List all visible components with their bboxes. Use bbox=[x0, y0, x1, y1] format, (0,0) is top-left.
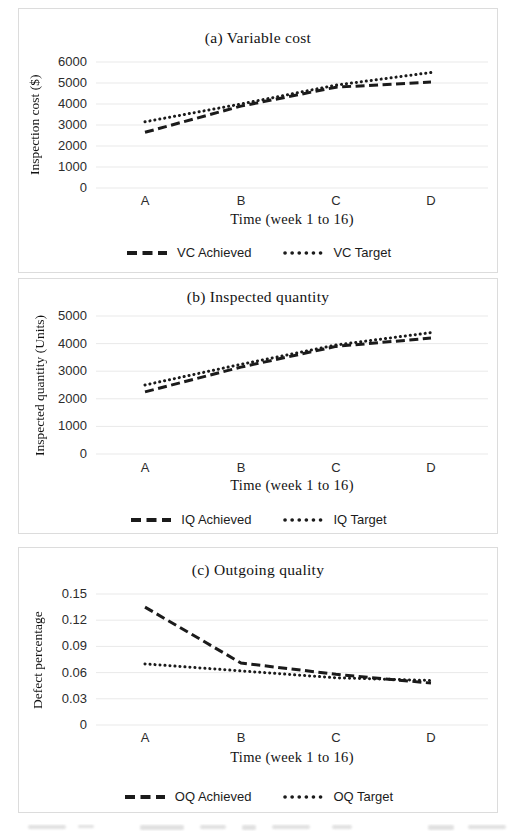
legend-item-achieved: IQ Achieved bbox=[129, 512, 251, 527]
y-tick-label: 0.09 bbox=[19, 639, 87, 653]
legend-label: OQ Target bbox=[333, 789, 393, 804]
y-tick-label: 0 bbox=[19, 447, 87, 461]
legend-label: IQ Target bbox=[333, 512, 386, 527]
plot-area bbox=[19, 9, 497, 272]
x-tick-label: C bbox=[319, 730, 353, 745]
legend-label: VC Target bbox=[333, 245, 391, 260]
dashed-line-icon bbox=[123, 793, 167, 801]
series-line-iq-achieved bbox=[145, 338, 431, 392]
x-tick-label: B bbox=[224, 460, 258, 475]
y-tick-label: 2000 bbox=[19, 139, 87, 153]
legend-label: VC Achieved bbox=[177, 245, 251, 260]
x-tick-label: A bbox=[128, 730, 162, 745]
y-tick-label: 5000 bbox=[19, 309, 87, 323]
x-axis-title: Time (week 1 to 16) bbox=[96, 749, 488, 766]
y-tick-label: 0.15 bbox=[19, 587, 87, 601]
y-tick-label: 0 bbox=[19, 181, 87, 195]
x-tick-label: D bbox=[414, 460, 448, 475]
x-tick-label: C bbox=[319, 193, 353, 208]
y-tick-label: 1000 bbox=[19, 160, 87, 174]
series-line-oq-achieved bbox=[145, 607, 431, 683]
y-tick-label: 4000 bbox=[19, 337, 87, 351]
x-tick-label: C bbox=[319, 460, 353, 475]
y-tick-label: 0.03 bbox=[19, 692, 87, 706]
dotted-line-icon bbox=[281, 793, 325, 801]
legend: VC Achieved VC Target bbox=[19, 245, 497, 260]
cropped-caption-fragment bbox=[0, 824, 517, 831]
x-tick-label: A bbox=[128, 193, 162, 208]
figure-page: { "colors": { "line": "#1b1b1b", "grid":… bbox=[0, 0, 517, 831]
legend-label: IQ Achieved bbox=[181, 512, 251, 527]
legend: IQ Achieved IQ Target bbox=[19, 512, 497, 527]
x-tick-label: D bbox=[414, 193, 448, 208]
y-tick-label: 2000 bbox=[19, 392, 87, 406]
y-tick-label: 6000 bbox=[19, 55, 87, 69]
legend-item-target: IQ Target bbox=[281, 512, 386, 527]
y-tick-label: 3000 bbox=[19, 118, 87, 132]
y-tick-label: 0.12 bbox=[19, 613, 87, 627]
x-axis-title: Time (week 1 to 16) bbox=[96, 477, 488, 494]
y-tick-label: 0.06 bbox=[19, 666, 87, 680]
chart-panel-outgoing-quality: (c) Outgoing quality Defect percentage 0… bbox=[18, 547, 498, 813]
x-tick-label: A bbox=[128, 460, 162, 475]
x-tick-label: B bbox=[224, 730, 258, 745]
chart-panel-variable-cost: (a) Variable cost Inspection cost ($) 01… bbox=[18, 8, 498, 273]
legend: OQ Achieved OQ Target bbox=[19, 789, 497, 804]
chart-panel-inspected-quantity: (b) Inspected quantity Inspected quantit… bbox=[18, 278, 498, 534]
y-tick-label: 0 bbox=[19, 718, 87, 732]
y-tick-label: 5000 bbox=[19, 76, 87, 90]
legend-label: OQ Achieved bbox=[175, 789, 252, 804]
y-tick-label: 3000 bbox=[19, 364, 87, 378]
dotted-line-icon bbox=[281, 249, 325, 257]
x-tick-label: D bbox=[414, 730, 448, 745]
y-tick-label: 1000 bbox=[19, 419, 87, 433]
legend-item-achieved: VC Achieved bbox=[125, 245, 251, 260]
x-axis-title: Time (week 1 to 16) bbox=[96, 211, 488, 228]
legend-item-target: OQ Target bbox=[281, 789, 393, 804]
dashed-line-icon bbox=[125, 249, 169, 257]
legend-item-achieved: OQ Achieved bbox=[123, 789, 252, 804]
plot-area bbox=[19, 548, 497, 812]
x-tick-label: B bbox=[224, 193, 258, 208]
series-line-vc-target bbox=[145, 73, 431, 122]
dashed-line-icon bbox=[129, 516, 173, 524]
dotted-line-icon bbox=[281, 516, 325, 524]
legend-item-target: VC Target bbox=[281, 245, 391, 260]
plot-area bbox=[19, 279, 497, 533]
y-tick-label: 4000 bbox=[19, 97, 87, 111]
